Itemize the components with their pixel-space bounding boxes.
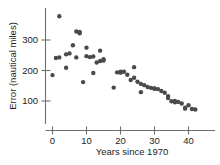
y-axis-title: Error (nautical miles) xyxy=(7,22,18,110)
y-tick-label: 300 xyxy=(22,34,38,45)
data-point xyxy=(57,14,61,18)
data-point xyxy=(57,55,61,59)
x-tick-label: 20 xyxy=(115,135,126,146)
data-point xyxy=(163,91,167,95)
x-axis-title: Years since 1970 xyxy=(96,146,169,157)
x-tick-label: 0 xyxy=(50,135,55,146)
data-point xyxy=(67,51,71,55)
data-point xyxy=(84,45,88,49)
data-point xyxy=(71,43,75,47)
data-point xyxy=(132,76,136,80)
scatter-plot-figure: 100200300 010203040 Error (nautical mile… xyxy=(0,0,220,165)
data-point xyxy=(186,103,190,107)
data-point xyxy=(81,80,85,84)
x-tick-label: 10 xyxy=(81,135,92,146)
x-tick-label: 40 xyxy=(183,135,194,146)
data-point xyxy=(122,70,126,74)
y-tick-label: 100 xyxy=(22,95,38,106)
data-point xyxy=(132,65,136,69)
data-point xyxy=(91,71,95,75)
data-points-layer xyxy=(50,14,197,112)
data-point xyxy=(91,54,95,58)
data-point xyxy=(78,31,82,35)
data-point xyxy=(50,73,54,77)
data-point xyxy=(74,55,78,59)
data-point xyxy=(64,66,68,70)
chart-canvas: 100200300 010203040 Error (nautical mile… xyxy=(0,0,220,165)
data-point xyxy=(180,101,184,105)
x-axis-ticks: 010203040 xyxy=(50,127,194,147)
y-tick-label: 200 xyxy=(22,65,38,76)
x-tick-label: 30 xyxy=(149,135,160,146)
data-point xyxy=(125,73,129,77)
data-point xyxy=(112,85,116,89)
data-point xyxy=(183,106,187,110)
data-point xyxy=(98,48,102,52)
y-axis-ticks: 100200300 xyxy=(22,34,50,106)
data-point xyxy=(101,58,105,62)
data-point xyxy=(139,90,143,94)
data-point xyxy=(193,107,197,111)
data-point xyxy=(166,96,170,100)
